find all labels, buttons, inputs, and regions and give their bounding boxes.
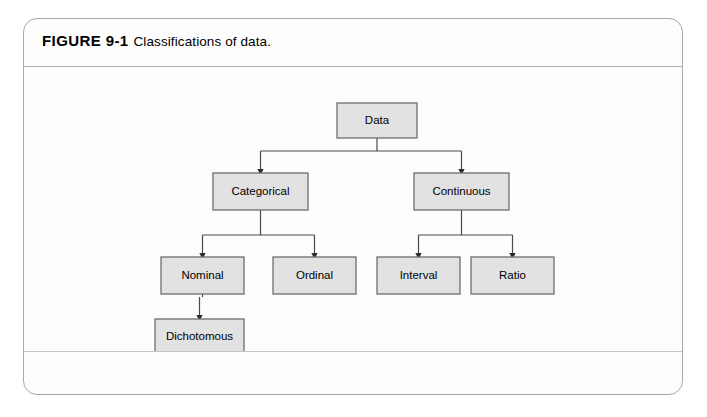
node-interval: Interval (377, 257, 460, 294)
figure-title-text: Classifications of data. (134, 34, 271, 49)
figure-frame: FIGURE 9-1Classifications of data. DataC… (23, 18, 683, 395)
node-label-categorical: Categorical (231, 185, 289, 197)
node-label-dichotomous: Dichotomous (166, 330, 233, 342)
node-layer: DataCategoricalContinuousNominalOrdinalI… (155, 103, 554, 351)
node-label-ratio: Ratio (499, 269, 526, 281)
node-ordinal: Ordinal (273, 257, 356, 294)
node-continuous: Continuous (414, 173, 509, 210)
node-label-continuous: Continuous (432, 185, 490, 197)
node-label-data: Data (365, 114, 390, 126)
classification-tree-diagram: DataCategoricalContinuousNominalOrdinalI… (24, 67, 682, 351)
figure-number-label: FIGURE 9-1 (42, 32, 129, 49)
figure-footer-band (24, 351, 682, 395)
node-nominal: Nominal (161, 257, 244, 294)
node-categorical: Categorical (213, 173, 308, 210)
node-ratio: Ratio (471, 257, 554, 294)
node-label-ordinal: Ordinal (296, 269, 333, 281)
flowchart-svg: DataCategoricalContinuousNominalOrdinalI… (24, 67, 682, 351)
figure-caption: FIGURE 9-1Classifications of data. (42, 32, 271, 49)
figure-caption-band: FIGURE 9-1Classifications of data. (24, 19, 682, 67)
node-dichotomous: Dichotomous (155, 319, 244, 351)
node-data: Data (337, 103, 417, 138)
node-label-nominal: Nominal (181, 269, 223, 281)
figure-page: FIGURE 9-1Classifications of data. DataC… (0, 0, 707, 417)
node-label-interval: Interval (400, 269, 438, 281)
